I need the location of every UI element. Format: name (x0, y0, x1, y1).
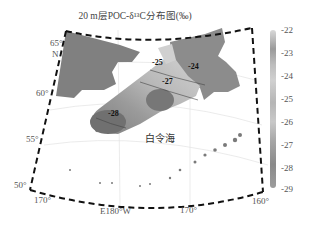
colorbar (270, 30, 276, 188)
colorbar-tick: -27 (281, 140, 293, 150)
colorbar-tick: -28 (281, 163, 293, 173)
contour-label: -28 (108, 109, 119, 118)
colorbar-tick: -25 (281, 94, 293, 104)
lat-label-65-n: N (52, 49, 59, 59)
low-core-center (146, 89, 174, 111)
colorbar-tick: -24 (281, 71, 293, 81)
lat-label-55: 55° (26, 134, 39, 144)
lon-label-160w: 160° (252, 196, 269, 206)
colorbar-tick: -26 (281, 117, 293, 127)
colorbar-tick: -29 (281, 184, 293, 194)
lon-label-170e: 170° (34, 195, 51, 205)
region-label-bering-sea: 白令海 (145, 130, 175, 145)
lon-label-170w: 170° (180, 205, 197, 215)
colorbar-tick: -23 (281, 48, 293, 58)
contour-label: -27 (162, 77, 173, 86)
contour-label: -24 (188, 62, 199, 71)
colorbar-tick: -22 (281, 25, 293, 35)
lat-label-65: 65° (50, 38, 63, 48)
lon-label-180: E180°W (100, 206, 131, 216)
map-plot (0, 0, 270, 226)
lat-label-60: 60° (36, 88, 49, 98)
lat-label-50: 50° (14, 180, 27, 190)
contour-label: -25 (152, 58, 163, 67)
